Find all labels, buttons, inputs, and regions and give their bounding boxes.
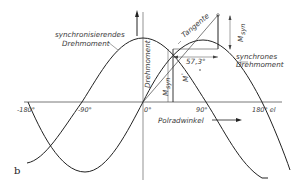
label-tangent: Tangente	[180, 11, 212, 40]
dot-marker	[199, 69, 201, 71]
svg-text:syn: syn	[164, 78, 172, 89]
label-synchronizing-line1: synchronisierendes	[55, 30, 125, 39]
arrow-up-icon	[229, 15, 232, 20]
label-synchronous-line2: Drehmoment	[236, 60, 285, 69]
arrow-up-icon	[135, 10, 139, 17]
x-tick-180: 180° el	[252, 106, 276, 114]
torque-angle-diagram: synchronisierendes Drehmoment synchrones…	[0, 0, 298, 184]
x-tick-90: 90°	[196, 106, 208, 114]
label-m-syn-left: M syn	[161, 78, 172, 96]
svg-text:M: M	[181, 75, 190, 82]
arrow-right-icon	[213, 56, 218, 59]
arrow-right-icon	[236, 118, 242, 122]
leader-tangent	[178, 41, 181, 44]
svg-text:syn: syn	[239, 24, 247, 35]
svg-text:': '	[180, 73, 188, 75]
panel-label: b	[14, 165, 20, 176]
arrow-down-icon	[229, 45, 232, 50]
x-tick-neg90: -90°	[78, 106, 92, 114]
tangent-line	[143, 15, 218, 102]
label-x-axis: Polradwinkel	[158, 116, 204, 125]
svg-text:M: M	[236, 35, 245, 42]
svg-text:M: M	[161, 89, 170, 96]
label-synchronizing-line2: Drehmoment	[62, 39, 111, 48]
label-angle: 57,3°	[186, 57, 206, 66]
label-m-syn-right: M syn	[236, 24, 247, 42]
label-y-axis: Drehmoment	[143, 39, 152, 88]
x-tick-0: 0°	[144, 106, 151, 114]
x-tick-neg180: -180°	[17, 106, 35, 114]
